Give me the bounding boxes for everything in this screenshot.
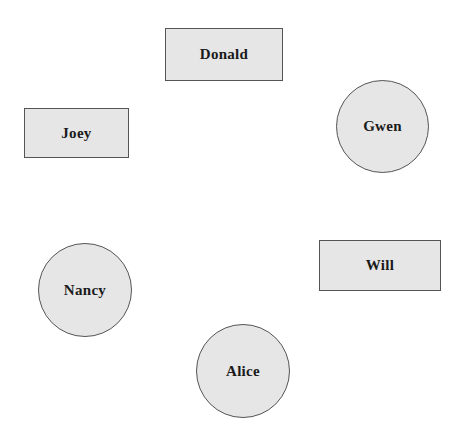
node-will: Will [319,240,441,291]
node-alice: Alice [196,324,290,418]
node-nancy: Nancy [38,243,132,337]
node-label: Donald [200,46,249,63]
node-donald: Donald [165,28,283,81]
node-label: Joey [61,125,91,142]
node-gwen: Gwen [336,80,429,173]
node-label: Nancy [64,282,106,299]
node-joey: Joey [24,108,129,158]
node-label: Will [366,257,394,274]
node-label: Gwen [363,118,402,135]
node-label: Alice [226,363,260,380]
